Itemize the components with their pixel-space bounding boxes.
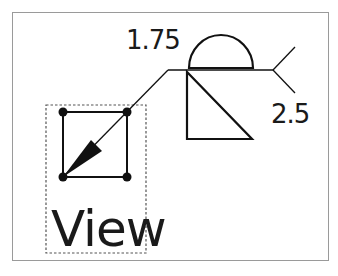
diagram-canvas: 1.75 2.5 View — [0, 0, 338, 276]
corner-handle-bottom-right[interactable] — [123, 173, 132, 182]
top-dimension-label: 1.75 — [126, 27, 180, 53]
view-label: View — [51, 204, 166, 254]
melt-through-symbol — [189, 35, 253, 68]
fillet-weld-symbol — [187, 72, 252, 139]
tail-upper-arm — [273, 47, 295, 70]
bottom-dimension-label: 2.5 — [271, 101, 309, 127]
tail-lower-arm — [273, 70, 295, 93]
corner-handle-top-left[interactable] — [59, 108, 68, 117]
arrowhead-icon — [63, 140, 102, 177]
